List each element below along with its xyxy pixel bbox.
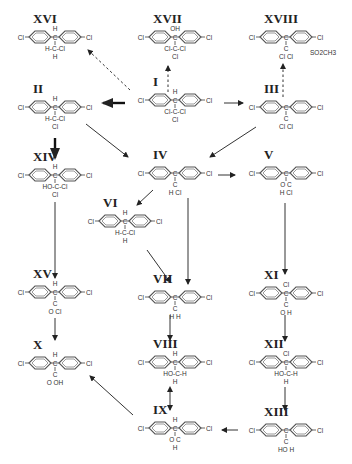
chlorine-left-label: Cl (138, 359, 145, 366)
chlorine-right-label: Cl (317, 427, 324, 434)
top-substituent: H (53, 25, 58, 32)
chlorine-right-label: Cl (206, 425, 213, 432)
chlorine-left-label: Cl (249, 34, 256, 41)
bottom-substituent: Cl-C-Cl (164, 45, 186, 52)
bottom-substituent-2: Cl Cl (279, 123, 294, 130)
chlorine-right-label: Cl (86, 104, 93, 111)
compound-x: XClClCHCO OH (18, 337, 93, 386)
compound-label: VII (153, 271, 173, 286)
central-carbon-label: C (173, 294, 178, 301)
chlorine-right-label: Cl (156, 218, 163, 225)
bottom-substituent-2: Cl Cl (279, 53, 294, 60)
compound-label: XII (264, 336, 284, 351)
compound-label: X (33, 337, 43, 352)
central-carbon-label: C (173, 359, 178, 366)
bottom-substituent-2: Cl (172, 53, 179, 60)
chlorine-right-label: Cl (206, 170, 213, 177)
chlorine-right-label: Cl (317, 170, 324, 177)
chlorine-left-label: Cl (18, 104, 25, 111)
chlorine-left-label: Cl (249, 427, 256, 434)
chlorine-left-label: Cl (138, 170, 145, 177)
chlorine-left-label: Cl (18, 34, 25, 41)
bottom-substituent-2: O Cl (49, 308, 63, 315)
chlorine-right-label: Cl (86, 34, 93, 41)
bottom-substituent-2: H (284, 378, 289, 385)
bottom-substituent-2: H (53, 53, 58, 60)
central-carbon-label: C (53, 360, 58, 367)
compound-iii: IIIClClCCCl Cl (249, 81, 324, 130)
chlorine-left-label: Cl (18, 289, 25, 296)
bottom-substituent: H-C-Cl (45, 45, 65, 52)
bottom-substituent: O C (280, 181, 292, 188)
chlorine-right-label: Cl (317, 34, 324, 41)
compound-label: XVI (33, 11, 57, 26)
top-substituent: H (173, 416, 178, 423)
bottom-substituent: C (173, 181, 178, 188)
chlorine-left-label: Cl (138, 97, 145, 104)
central-carbon-label: C (284, 170, 289, 177)
compound-v: VClClCO CH Cl (249, 147, 324, 196)
central-carbon-label: C (123, 218, 128, 225)
central-carbon-label: C (53, 172, 58, 179)
central-carbon-label: C (53, 34, 58, 41)
compound-structures: IClClCHCl-C-ClClIIClClCHH-C-ClClIIIClClC… (18, 11, 337, 453)
compound-label: II (33, 81, 43, 96)
bottom-substituent: HO-C-Cl (43, 183, 68, 190)
compound-vi: VIClClCHH-C-ClH (88, 195, 163, 244)
bottom-substituent: C (284, 115, 289, 122)
bottom-substituent-2: Cl (52, 123, 59, 130)
compound-label: VIII (153, 336, 178, 351)
bottom-substituent-2: HO H (278, 446, 295, 453)
bottom-substituent-2: H (173, 444, 178, 451)
chlorine-left-label: Cl (249, 290, 256, 297)
top-substituent: H (123, 209, 128, 216)
compound-label: XIV (33, 149, 57, 164)
compound-label: I (153, 74, 158, 89)
top-substituent: H (173, 88, 178, 95)
bottom-substituent: HO-C-H (274, 370, 298, 377)
bottom-substituent: H-C-Cl (45, 115, 65, 122)
bottom-substituent: C (173, 305, 178, 312)
bottom-substituent-2: O OH (47, 379, 64, 386)
bottom-substituent-2: H H (169, 313, 181, 320)
arrow-IX-to-X (90, 376, 133, 415)
chlorine-left-label: Cl (18, 360, 25, 367)
chlorine-left-label: Cl (88, 218, 95, 225)
chlorine-right-label: Cl (86, 360, 93, 367)
top-substituent: H (53, 95, 58, 102)
compound-xii: XIIClClCClHO-C-HH (249, 336, 324, 385)
arrow-IV-to-VI (137, 190, 153, 205)
top-substituent: Cl (283, 350, 290, 357)
central-carbon-label: C (284, 104, 289, 111)
bottom-substituent-2: O H (280, 309, 292, 316)
top-substituent: OH (170, 25, 180, 32)
compound-label: IV (153, 147, 168, 162)
chlorine-right-label: Cl (317, 104, 324, 111)
chlorine-right-label: Cl (206, 359, 213, 366)
compound-ii: IIClClCHH-C-ClCl (18, 81, 93, 130)
metabolic-pathway-diagram: IClClCHCl-C-ClClIIClClCHH-C-ClClIIIClClC… (0, 0, 352, 464)
bottom-substituent: H-C-Cl (115, 229, 135, 236)
central-carbon-label: C (284, 34, 289, 41)
compound-label: IX (153, 402, 168, 417)
bottom-substituent-2: H Cl (169, 189, 182, 196)
bottom-substituent-2: Cl (52, 191, 59, 198)
chlorine-right-label: Cl (86, 289, 93, 296)
central-carbon-label: C (173, 425, 178, 432)
chlorine-left-label: Cl (249, 104, 256, 111)
bottom-substituent: C (53, 300, 58, 307)
chlorine-left-label: Cl (138, 425, 145, 432)
top-substituent: Cl (283, 281, 290, 288)
central-carbon-label: C (284, 290, 289, 297)
chlorine-left-label: Cl (249, 359, 256, 366)
top-substituent: H (173, 350, 178, 357)
central-carbon-label: C (53, 289, 58, 296)
compound-vii: VIIClClCCH H (138, 271, 213, 320)
bottom-substituent: C (284, 438, 289, 445)
compound-viii: VIIIClClCHHO-C-HH (138, 336, 213, 385)
compound-label: VI (103, 195, 117, 210)
bottom-substituent-2: H Cl (280, 189, 293, 196)
bottom-substituent: C (53, 371, 58, 378)
arrow-I-to-XVI (88, 50, 130, 90)
bottom-substituent-2: H (123, 237, 128, 244)
